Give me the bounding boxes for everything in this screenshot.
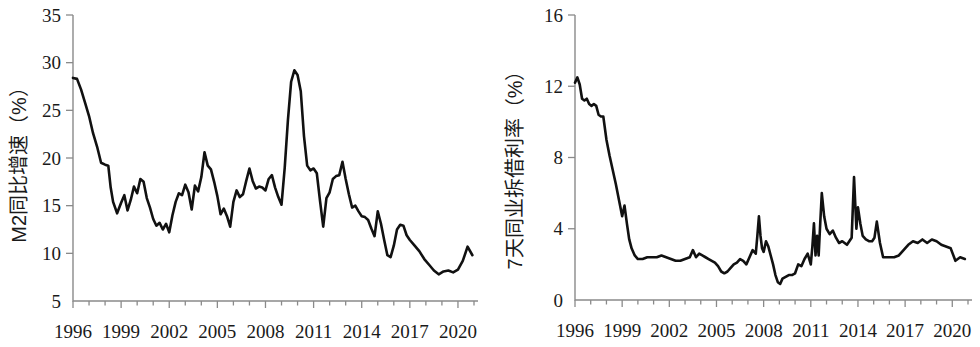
y-tick-label: 12: [544, 76, 563, 97]
x-tick-label: 2017: [391, 321, 429, 342]
y-tick-label: 4: [554, 218, 564, 239]
x-tick-label: 2020: [439, 321, 477, 342]
x-tick-label: 2002: [150, 321, 188, 342]
y-tick-label: 10: [42, 243, 61, 264]
y-tick-label: 35: [42, 5, 61, 26]
m2-y-axis-title: M2同比增速（%）: [8, 77, 30, 243]
x-tick-label: 2008: [246, 321, 284, 342]
dual-line-chart-figure: M2同比增速（%） 5101520253035 1996199920022005…: [0, 0, 980, 347]
interbank-rate-series-line: [575, 77, 965, 284]
m2-x-label-group: 199619992002200520082011201420172020: [54, 321, 477, 342]
y-tick-label: 30: [42, 52, 61, 73]
rate-y-tick-group: 0481216: [544, 5, 575, 311]
rate-x-label-group: 199619992002200520082011201420172020: [556, 320, 971, 341]
x-tick-label: 2014: [839, 320, 878, 341]
x-tick-label: 1996: [556, 320, 594, 341]
y-tick-label: 0: [554, 290, 564, 311]
interbank-rate-svg: 7天同业拆借利率（%） 0481216 19961999200220052008…: [490, 0, 980, 347]
x-tick-label: 1996: [54, 321, 92, 342]
chart-panel-m2-growth: M2同比增速（%） 5101520253035 1996199920022005…: [0, 0, 490, 347]
y-tick-label: 15: [42, 195, 61, 216]
m2-y-axis-title-group: M2同比增速（%）: [8, 77, 30, 243]
rate-x-tick-group: [575, 300, 968, 307]
chart-panel-interbank-rate: 7天同业拆借利率（%） 0481216 19961999200220052008…: [490, 0, 980, 347]
y-tick-label: 16: [544, 5, 563, 26]
x-tick-label: 2020: [933, 320, 971, 341]
rate-y-axis-title-group: 7天同业拆借利率（%）: [504, 61, 526, 270]
rate-axis-lines: [575, 15, 972, 300]
m2-growth-series-line: [73, 70, 472, 274]
y-tick-label: 25: [42, 100, 61, 121]
x-tick-label: 1999: [102, 321, 140, 342]
x-tick-label: 2014: [343, 321, 382, 342]
x-tick-label: 2005: [198, 321, 236, 342]
x-tick-label: 2005: [697, 320, 735, 341]
y-tick-label: 20: [42, 148, 61, 169]
x-tick-label: 1999: [603, 320, 641, 341]
x-tick-label: 2008: [745, 320, 783, 341]
m2-y-tick-group: 5101520253035: [42, 5, 73, 312]
x-tick-label: 2011: [295, 321, 332, 342]
y-tick-label: 5: [52, 291, 62, 312]
x-tick-label: 2017: [886, 320, 924, 341]
m2-axis-lines: [73, 15, 478, 301]
y-tick-label: 8: [554, 147, 564, 168]
x-tick-label: 2002: [650, 320, 688, 341]
x-tick-label: 2011: [792, 320, 829, 341]
m2-x-tick-group: [73, 301, 474, 308]
rate-y-axis-title: 7天同业拆借利率（%）: [504, 61, 526, 270]
m2-growth-svg: M2同比增速（%） 5101520253035 1996199920022005…: [0, 0, 490, 347]
